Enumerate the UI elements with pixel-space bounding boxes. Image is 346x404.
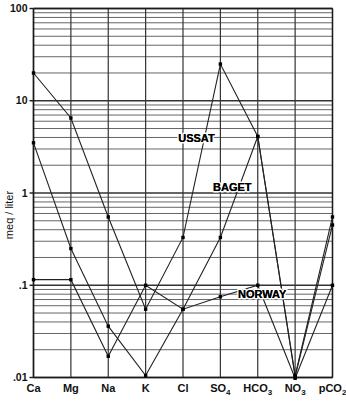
y-tick-label: 100 xyxy=(10,2,28,14)
x-tick-label-Cl: Cl xyxy=(178,382,189,394)
y-tick-label: .01 xyxy=(13,371,28,383)
data-marker-norway-Ca xyxy=(32,278,35,281)
x-tick-label-text: Na xyxy=(101,382,116,394)
data-marker-norway-Cl xyxy=(181,308,184,311)
x-tick-label-Ca: Ca xyxy=(26,382,41,394)
data-marker-norway-HCO3 xyxy=(256,284,259,287)
x-tick-label-text: Mg xyxy=(63,382,79,394)
data-marker-norway-SO4 xyxy=(219,295,222,298)
series-annotation-ussat: USSAT xyxy=(178,132,215,144)
data-marker-ussat-pCO2 xyxy=(331,215,334,218)
x-tick-label-text: Ca xyxy=(26,382,41,394)
data-marker-ussat-Cl xyxy=(181,236,184,239)
y-tick-label: 10 xyxy=(16,94,28,106)
data-marker-norway-K xyxy=(144,284,147,287)
series-annotation-baget: BAGET xyxy=(213,181,252,193)
data-marker-baget-pCO2 xyxy=(331,223,334,226)
y-tick-label: 1 xyxy=(22,187,28,199)
data-marker-baget-Na xyxy=(107,324,110,327)
y-axis-title-group: meq / liter xyxy=(3,191,15,240)
data-marker-norway-Na xyxy=(107,355,110,358)
x-tick-label-Mg: Mg xyxy=(63,382,79,394)
data-marker-ussat-Na xyxy=(107,215,110,218)
data-marker-baget-HCO3 xyxy=(256,135,259,138)
data-marker-baget-Ca xyxy=(32,141,35,144)
data-marker-norway-Mg xyxy=(69,278,72,281)
data-marker-ussat-SO4 xyxy=(219,62,222,65)
y-axis-title: meq / liter xyxy=(3,191,15,240)
x-tick-label-text: Cl xyxy=(178,382,189,394)
x-tick-label-text: K xyxy=(142,382,150,394)
y-tick-label: .1 xyxy=(19,279,28,291)
data-marker-ussat-Ca xyxy=(32,71,35,74)
data-marker-norway-pCO2 xyxy=(331,284,334,287)
data-marker-baget-K xyxy=(144,374,147,377)
series-annotation-norway: NORWAY xyxy=(238,288,287,300)
log-line-chart: 100101.1.01 CaMgNaKClSO4HCO3NO3pCO2 USSA… xyxy=(0,0,346,404)
data-marker-norway-NO3 xyxy=(293,377,296,380)
chart-container: 100101.1.01 CaMgNaKClSO4HCO3NO3pCO2 USSA… xyxy=(0,0,346,404)
data-marker-ussat-Mg xyxy=(69,116,72,119)
x-tick-label-K: K xyxy=(142,382,150,394)
data-marker-ussat-K xyxy=(144,308,147,311)
data-marker-baget-Mg xyxy=(69,247,72,250)
data-marker-baget-SO4 xyxy=(219,236,222,239)
x-tick-label-Na: Na xyxy=(101,382,116,394)
